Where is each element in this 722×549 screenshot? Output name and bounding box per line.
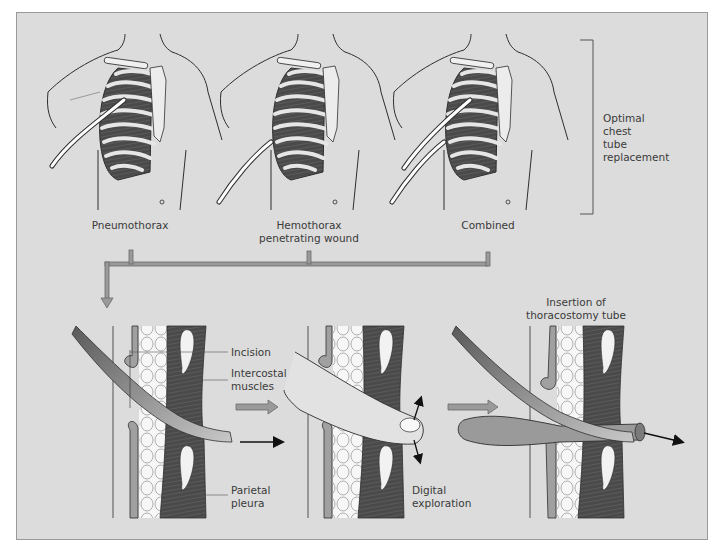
torso-hemothorax-illustration	[219, 34, 395, 210]
label-intercostal-muscles: Intercostal muscles	[231, 367, 287, 393]
label-optimal-chest-tube-replacement: Optimal chest tube replacement	[603, 112, 669, 164]
caption-hemothorax: Hemothorax penetrating wound	[259, 219, 359, 245]
step-insertion-illustration	[452, 326, 682, 518]
label-insertion-thoracostomy-tube: Insertion of thoracostomy tube	[526, 296, 626, 322]
caption-combined: Combined	[461, 219, 514, 232]
flow-arrow-1	[236, 400, 278, 414]
caption-pneumothorax: Pneumothorax	[92, 219, 169, 232]
optimal-bracket	[580, 40, 593, 214]
flow-connector	[101, 250, 490, 308]
torso-pneumothorax-illustration	[47, 34, 222, 210]
flow-arrow-2	[448, 400, 498, 414]
label-digital-exploration: Digital exploration	[412, 484, 471, 510]
step-digital-exploration-illustration	[284, 326, 423, 518]
torso-combined-illustration	[392, 34, 568, 210]
label-parietal-pleura: Parietal pleura	[231, 484, 270, 510]
illustration-canvas	[0, 0, 722, 549]
label-incision: Incision	[231, 346, 271, 359]
